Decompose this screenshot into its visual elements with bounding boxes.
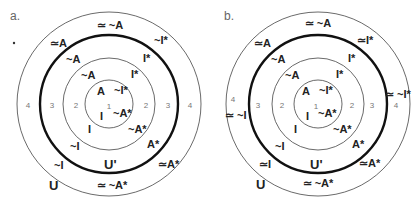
panel-a-label: a. — [10, 9, 20, 23]
label-inner-i: I — [306, 110, 309, 122]
label-upper-right-ring2: I* — [336, 68, 344, 80]
ring-number-4-right: 4 — [188, 101, 193, 110]
panel-b-label: b. — [224, 9, 234, 23]
label-upper-left-ring3: ~A — [271, 53, 285, 65]
label-lower-right-ring2: ~A* — [128, 123, 147, 135]
label-inner-not-i-star: ~I* — [114, 84, 128, 96]
ring-number-2-right: 2 — [350, 101, 355, 110]
panel-a: a. 1 2 2 3 3 4 4 ≃ ~A ≃A ~I* ~A I* ~A I*… — [10, 9, 201, 196]
label-inner-not-i-star: ~I* — [319, 84, 333, 96]
label-bottom-outer: ≃ ~A* — [97, 179, 128, 191]
label-lower-left-ring2: I — [88, 123, 91, 135]
label-upper-left-outer: ≃A — [254, 37, 271, 49]
label-lower-left-outer: ~I — [54, 159, 63, 171]
label-upper-right-outer: ≃I* — [357, 34, 374, 46]
label-top-outer: ≃ ~A — [97, 19, 123, 31]
ring-number-2-left: 2 — [74, 101, 79, 110]
label-upper-left-outer: ≃A — [50, 37, 67, 49]
label-universe: U — [256, 177, 265, 192]
label-right-outer: ≃ ~I* — [385, 88, 412, 100]
label-upper-right-ring2: I* — [131, 68, 139, 80]
ring-number-1: 1 — [107, 102, 112, 111]
label-lower-left-ring2: I — [294, 123, 297, 135]
ring-number-4-right: 4 — [394, 101, 399, 110]
label-u-prime: U' — [104, 157, 116, 172]
ring-number-3-left: 3 — [256, 101, 261, 110]
label-bottom-outer: ≃ ~A* — [303, 177, 334, 189]
label-lower-right-ring3: A* — [147, 138, 160, 150]
label-left-outer: ≃ ~I — [225, 109, 247, 121]
label-lower-left-ring3: ~I — [70, 140, 79, 152]
label-upper-left-ring3: ~A — [66, 53, 80, 65]
label-universe: U — [49, 178, 58, 193]
label-lower-left-outer: ≃I — [259, 158, 271, 170]
label-inner-i: I — [100, 110, 103, 122]
label-inner-not-a-star: ~A* — [318, 107, 337, 119]
label-inner-a: A — [302, 85, 310, 97]
label-upper-right-ring3: I* — [143, 52, 151, 64]
label-upper-left-ring2: ~A — [285, 69, 299, 81]
label-upper-left-ring2: ~A — [81, 69, 95, 81]
ring-number-2-right: 2 — [144, 101, 149, 110]
label-lower-right-outer: ≃A* — [158, 158, 180, 170]
label-upper-right-ring3: I* — [348, 52, 356, 64]
label-lower-right-outer: ≃A* — [359, 157, 381, 169]
stray-dot — [13, 42, 15, 44]
label-top-outer: ≃ ~A — [305, 17, 331, 29]
ring-number-2-left: 2 — [280, 101, 285, 110]
label-u-prime: U' — [310, 157, 322, 172]
ring-number-3-right: 3 — [370, 101, 375, 110]
ring-number-3-left: 3 — [50, 101, 55, 110]
label-upper-right-outer: ~I* — [154, 34, 168, 46]
ring-number-3-right: 3 — [166, 101, 171, 110]
diagram-canvas: a. 1 2 2 3 3 4 4 ≃ ~A ≃A ~I* ~A I* ~A I*… — [0, 0, 419, 203]
ring-number-4-left: 4 — [231, 95, 236, 104]
panel-b: b. 1 2 2 3 3 4 4 ≃ ~A ≃A ≃I* ≃ ~I* ≃ ~I … — [224, 9, 412, 196]
label-inner-a: A — [97, 85, 105, 97]
label-lower-right-ring2: ~A* — [333, 123, 352, 135]
label-inner-not-a-star: ~A* — [113, 107, 132, 119]
label-lower-left-ring3: ~I — [275, 140, 284, 152]
ring-number-4-left: 4 — [26, 101, 31, 110]
label-lower-right-ring3: A* — [352, 138, 365, 150]
